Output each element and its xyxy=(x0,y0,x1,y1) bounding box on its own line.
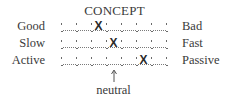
scale-tick xyxy=(151,23,153,32)
scale-tick xyxy=(166,40,168,49)
scale-segment[interactable] xyxy=(136,21,151,33)
scale-segment[interactable] xyxy=(76,21,91,33)
scale-segment[interactable] xyxy=(76,55,91,67)
rating-scale: X xyxy=(61,55,166,67)
rating-scale: X xyxy=(61,21,166,33)
rating-mark: X xyxy=(139,53,147,67)
dotted-line xyxy=(153,47,166,48)
up-arrow-icon xyxy=(109,69,119,83)
scale-segment[interactable] xyxy=(121,21,136,33)
dotted-line xyxy=(138,30,151,31)
scale-tick xyxy=(151,57,153,66)
scale-tick xyxy=(91,23,93,32)
scale-tick xyxy=(106,23,108,32)
scale-segment[interactable] xyxy=(151,38,166,50)
scale-segment[interactable] xyxy=(61,21,76,33)
scale-row-good-bad: Good X Bad xyxy=(0,19,231,35)
dotted-line xyxy=(63,47,76,48)
scale-tick xyxy=(106,40,108,49)
scale-segment[interactable] xyxy=(121,55,136,67)
dotted-line xyxy=(123,30,136,31)
rating-mark: X xyxy=(109,36,117,50)
left-anchor-label: Active xyxy=(12,53,45,68)
scale-segment[interactable] xyxy=(151,21,166,33)
dotted-line xyxy=(108,30,121,31)
dotted-line xyxy=(153,64,166,65)
scale-row-active-passive: Active X Passive xyxy=(0,53,231,69)
scale-tick xyxy=(61,23,63,32)
scale-segment[interactable] xyxy=(136,38,151,50)
scale-segment[interactable] xyxy=(61,38,76,50)
scale-tick xyxy=(151,40,153,49)
dotted-line xyxy=(123,64,136,65)
rating-mark: X xyxy=(94,19,102,33)
scale-segment[interactable] xyxy=(76,38,91,50)
right-anchor-label: Bad xyxy=(182,19,202,34)
scale-tick xyxy=(106,57,108,66)
dotted-line xyxy=(93,47,106,48)
scale-tick xyxy=(91,40,93,49)
scale-tick xyxy=(166,23,168,32)
scale-segment[interactable] xyxy=(91,55,106,67)
dotted-line xyxy=(93,64,106,65)
dotted-line xyxy=(123,47,136,48)
scale-tick xyxy=(121,40,123,49)
scale-tick xyxy=(76,23,78,32)
scale-tick xyxy=(136,57,138,66)
scale-tick xyxy=(76,57,78,66)
scale-tick xyxy=(166,57,168,66)
concept-title: CONCEPT xyxy=(0,3,231,19)
right-anchor-label: Passive xyxy=(182,53,220,68)
dotted-line xyxy=(153,30,166,31)
scale-tick xyxy=(91,57,93,66)
dotted-line xyxy=(78,47,91,48)
scale-row-slow-fast: Slow X Fast xyxy=(0,36,231,52)
dotted-line xyxy=(108,64,121,65)
dotted-line xyxy=(63,64,76,65)
left-anchor-label: Good xyxy=(17,19,45,34)
scale-segment[interactable] xyxy=(106,55,121,67)
scale-segment[interactable] xyxy=(121,38,136,50)
dotted-line xyxy=(63,30,76,31)
title-text: CONCEPT xyxy=(84,3,145,18)
rating-scale: X xyxy=(61,38,166,50)
left-anchor-label: Slow xyxy=(19,36,45,51)
scale-tick xyxy=(61,57,63,66)
scale-tick xyxy=(136,40,138,49)
scale-tick xyxy=(121,57,123,66)
scale-tick xyxy=(61,40,63,49)
scale-segment[interactable] xyxy=(91,38,106,50)
scale-segment[interactable] xyxy=(106,21,121,33)
scale-segment[interactable] xyxy=(151,55,166,67)
dotted-line xyxy=(78,64,91,65)
dotted-line xyxy=(138,47,151,48)
scale-segment[interactable] xyxy=(61,55,76,67)
right-anchor-label: Fast xyxy=(182,36,203,51)
scale-tick xyxy=(76,40,78,49)
dotted-line xyxy=(78,30,91,31)
scale-tick xyxy=(136,23,138,32)
scale-tick xyxy=(121,23,123,32)
neutral-label: neutral xyxy=(96,83,131,98)
